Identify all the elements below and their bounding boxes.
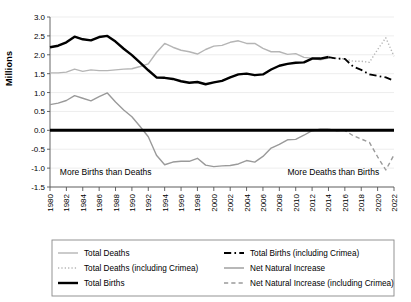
x-axis-tick-label: 2002: [226, 193, 235, 211]
chart-annotation: More Deaths than Births: [288, 167, 380, 177]
x-axis-tick-label: 1982: [62, 193, 71, 211]
legend-label[interactable]: Net Natural Increase: [250, 264, 326, 273]
series-line: [328, 57, 394, 81]
legend-label[interactable]: Total Births (including Crimea): [250, 249, 359, 258]
x-axis-tick-label: 1990: [128, 193, 137, 211]
y-axis-tick-label: 2.0: [34, 51, 46, 60]
y-axis-tick-label: -1.5: [31, 183, 45, 192]
x-axis-tick-label: 1992: [144, 193, 153, 211]
x-axis-tick-label: 1996: [177, 193, 186, 211]
x-axis-tick-label: 2006: [259, 193, 268, 211]
legend-label[interactable]: Net Natural Increase (including Crimea): [250, 279, 394, 288]
x-axis-tick-label: 2012: [308, 193, 317, 211]
x-axis-tick-label: 1988: [112, 193, 121, 211]
x-axis-tick-label: 1998: [193, 193, 202, 211]
series-line: [50, 41, 328, 73]
y-axis-tick-label: -1.0: [31, 164, 45, 173]
legend-label[interactable]: Total Births: [84, 279, 125, 288]
y-axis-tick-label: 1.5: [34, 70, 46, 79]
x-axis-tick-label: 1984: [79, 193, 88, 211]
series-line: [328, 38, 394, 63]
y-axis-tick-label: 0.5: [34, 107, 46, 116]
chart-annotation: More Births than Deaths: [60, 167, 152, 177]
x-axis-tick-label: 2022: [390, 193, 399, 211]
x-axis-tick-label: 2004: [243, 193, 252, 211]
x-axis-tick-label: 2010: [292, 193, 301, 211]
chart-figure: Millions 3.02.52.01.51.00.50.0-0.5-1.0-1…: [0, 0, 411, 302]
x-axis-tick-label: 2020: [374, 193, 383, 211]
y-axis-tick-label: 3.0: [34, 13, 46, 22]
y-axis-tick-label: 1.0: [34, 89, 46, 98]
x-axis-tick-label: 1986: [95, 193, 104, 211]
x-axis-tick-label: 2014: [324, 193, 333, 211]
x-axis-tick-label: 2000: [210, 193, 219, 211]
series-line: [50, 36, 328, 84]
x-axis-tick-label: 2008: [275, 193, 284, 211]
legend-label[interactable]: Total Deaths (including Crimea): [84, 264, 198, 273]
x-axis-tick-label: 1980: [46, 193, 55, 211]
x-axis-tick-label: 2018: [357, 193, 366, 211]
y-axis-tick-label: 0.0: [34, 126, 46, 135]
legend-label[interactable]: Total Deaths: [84, 249, 130, 258]
chart-plot-area: 3.02.52.01.51.00.50.0-0.5-1.0-1.51980198…: [0, 0, 411, 302]
y-axis-tick-label: 2.5: [34, 32, 46, 41]
x-axis-tick-label: 1994: [161, 193, 170, 211]
x-axis-tick-label: 2016: [341, 193, 350, 211]
y-axis-tick-label: -0.5: [31, 145, 45, 154]
